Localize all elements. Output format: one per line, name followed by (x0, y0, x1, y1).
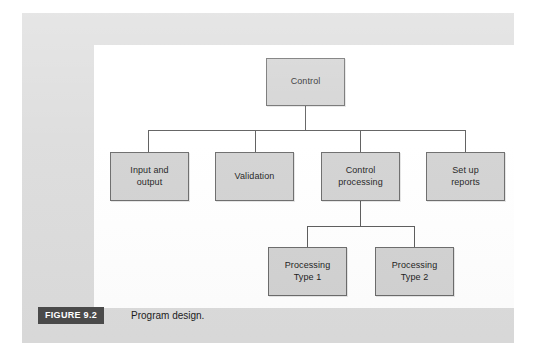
node-control-label: Control (289, 76, 323, 88)
connector-level2-bus (307, 226, 414, 227)
node-processing-type-1[interactable]: Processing Type 1 (268, 247, 347, 296)
connector-drop-processing-type-1 (307, 226, 308, 247)
connector-control-processing-stem (360, 201, 361, 226)
node-input-and-output[interactable]: Input and output (110, 152, 189, 201)
node-control[interactable]: Control (266, 58, 345, 106)
connector-drop-set-up-reports (465, 130, 466, 152)
node-control-processing[interactable]: Control processing (321, 152, 400, 201)
connector-drop-control-processing (360, 130, 361, 152)
connector-drop-validation (255, 130, 256, 152)
node-control-processing-label: Control processing (336, 165, 385, 188)
diagram-canvas: Control Input and output Validation Cont… (94, 45, 519, 308)
connector-drop-processing-type-2 (414, 226, 415, 247)
node-input-and-output-label: Input and output (128, 165, 170, 188)
node-processing-type-2[interactable]: Processing Type 2 (375, 247, 454, 296)
connector-level1-bus (148, 130, 465, 131)
figure-plate-background: Control Input and output Validation Cont… (22, 13, 514, 343)
figure-caption-row: FIGURE 9.2 Program design. (38, 306, 204, 324)
figure-number-badge: FIGURE 9.2 (38, 307, 104, 324)
node-validation[interactable]: Validation (215, 152, 294, 201)
figure-container: Control Input and output Validation Cont… (0, 0, 538, 356)
node-set-up-reports[interactable]: Set up reports (426, 152, 505, 201)
node-processing-type-2-label: Processing Type 2 (390, 260, 440, 283)
node-validation-label: Validation (233, 171, 277, 183)
connector-control-stem (305, 106, 306, 130)
node-processing-type-1-label: Processing Type 1 (283, 260, 333, 283)
node-set-up-reports-label: Set up reports (449, 165, 482, 188)
figure-caption-text: Program design. (131, 310, 204, 321)
connector-drop-input-and-output (148, 130, 149, 152)
